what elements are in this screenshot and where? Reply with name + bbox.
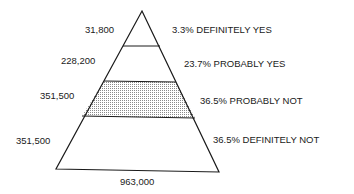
count-label-probably-not: 351,500	[40, 90, 74, 101]
percent-label-probably-not: 36.5% PROBABLY NOT	[200, 95, 303, 106]
count-label-probably-yes: 228,200	[61, 55, 95, 66]
pyramid-diagram: 31,800 228,200 351,500 351,500 3.3% DEFI…	[0, 0, 354, 194]
total-label: 963,000	[120, 176, 154, 187]
count-label-definitely-not: 351,500	[16, 135, 50, 146]
percent-label-probably-yes: 23.7% PROBABLY YES	[184, 58, 285, 69]
count-label-definitely-yes: 31,800	[85, 24, 114, 35]
percent-label-definitely-not: 36.5% DEFINITELY NOT	[213, 134, 319, 145]
percent-label-definitely-yes: 3.3% DEFINITELY YES	[172, 24, 272, 35]
